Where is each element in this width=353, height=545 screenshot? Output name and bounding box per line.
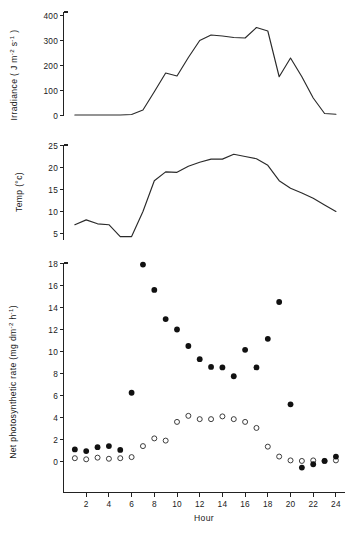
data-point — [276, 299, 282, 305]
photosynthesis-xtick-16: 16 — [240, 499, 250, 509]
photosynthesis-x-tick-labels: 24681012141618202224 — [84, 499, 341, 509]
photosynthesis-axes — [64, 263, 346, 493]
data-point — [197, 417, 202, 422]
temperature-ytick-20: 20 — [48, 163, 58, 173]
data-point — [163, 438, 168, 443]
temperature-y-axis-label: Temp (°c) — [14, 172, 24, 212]
data-point — [106, 443, 112, 449]
data-point — [186, 413, 191, 418]
data-point — [231, 417, 236, 422]
photosynthesis-ytick-10: 10 — [48, 347, 58, 357]
temperature-curve — [75, 154, 336, 236]
photosynthesis-x-axis-label: Hour — [194, 513, 214, 523]
data-point — [117, 447, 123, 453]
scatter-series-filled-circles — [72, 262, 339, 471]
panel-photosynthesis: Net photosynthetic rate (mg dm-2 h-1) 0 … — [7, 259, 345, 524]
photosynthesis-ytick-14: 14 — [48, 303, 58, 313]
temperature-y-ticks — [60, 146, 64, 234]
data-point — [310, 461, 316, 467]
data-point — [152, 436, 157, 441]
photosynthesis-y-axis-label: Net photosynthetic rate (mg dm-2 h-1) — [7, 305, 18, 459]
photosynthesis-xtick-10: 10 — [172, 499, 182, 509]
data-point — [72, 456, 77, 461]
data-point — [254, 425, 259, 430]
irradiance-y-axis-label: Irradiance ( J m-2 s-1 ) — [8, 30, 19, 121]
panel-temperature: Temp (°c) 5 10 15 20 25 — [14, 141, 336, 241]
data-point — [288, 458, 293, 463]
irradiance-ytick-100: 100 — [44, 86, 59, 96]
photosynthesis-ytick-4: 4 — [53, 413, 58, 423]
data-point — [174, 327, 180, 333]
irradiance-ytick-0: 0 — [53, 111, 58, 121]
figure-svg: Irradiance ( J m-2 s-1 ) 0 100 200 300 4… — [0, 0, 353, 545]
data-point — [254, 365, 260, 371]
photosynthesis-xtick-2: 2 — [84, 499, 89, 509]
photosynthesis-xtick-24: 24 — [331, 499, 341, 509]
data-point — [197, 356, 203, 362]
photosynthesis-ytick-18: 18 — [48, 259, 58, 269]
photosynthesis-ytick-6: 6 — [53, 391, 58, 401]
irradiance-ytick-300: 300 — [44, 36, 59, 46]
data-point — [242, 347, 248, 353]
irradiance-y-ticks — [60, 16, 64, 116]
data-point — [95, 455, 100, 460]
temperature-ytick-10: 10 — [48, 207, 58, 217]
data-point — [231, 373, 237, 379]
data-point — [288, 401, 294, 407]
data-point — [175, 419, 180, 424]
photosynthesis-xtick-22: 22 — [308, 499, 318, 509]
panel-irradiance: Irradiance ( J m-2 s-1 ) 0 100 200 300 4… — [8, 11, 336, 121]
photosynthesis-ytick-2: 2 — [53, 435, 58, 445]
data-point — [265, 444, 270, 449]
data-point — [163, 316, 169, 322]
data-point — [209, 417, 214, 422]
photosynthesis-ytick-16: 16 — [48, 281, 58, 291]
photosynthesis-xtick-6: 6 — [129, 499, 134, 509]
data-point — [220, 414, 225, 419]
data-point — [243, 419, 248, 424]
data-point — [277, 454, 282, 459]
data-point — [185, 343, 191, 349]
scientific-figure: Irradiance ( J m-2 s-1 ) 0 100 200 300 4… — [0, 0, 353, 545]
data-point — [95, 444, 101, 450]
data-point — [129, 455, 134, 460]
photosynthesis-ytick-8: 8 — [53, 369, 58, 379]
photosynthesis-ytick-0: 0 — [53, 457, 58, 467]
data-point — [140, 262, 146, 268]
data-point — [83, 448, 89, 454]
data-point — [322, 458, 328, 464]
data-point — [299, 465, 305, 471]
temperature-ytick-25: 25 — [48, 141, 58, 151]
data-point — [333, 454, 339, 460]
irradiance-ytick-200: 200 — [44, 61, 59, 71]
data-point — [299, 458, 304, 463]
photosynthesis-xtick-8: 8 — [152, 499, 157, 509]
temperature-ytick-15: 15 — [48, 185, 58, 195]
photosynthesis-xtick-4: 4 — [106, 499, 111, 509]
data-point — [129, 390, 135, 396]
data-point — [220, 365, 226, 371]
photosynthesis-x-ticks — [86, 493, 336, 497]
data-point — [84, 457, 89, 462]
data-point — [265, 336, 271, 342]
photosynthesis-y-ticks — [60, 264, 64, 462]
photosynthesis-ytick-12: 12 — [48, 325, 58, 335]
irradiance-curve — [75, 28, 336, 116]
data-point — [151, 287, 157, 293]
photosynthesis-xtick-12: 12 — [195, 499, 205, 509]
scatter-series-open-circles — [72, 413, 338, 463]
data-point — [106, 456, 111, 461]
photosynthesis-xtick-20: 20 — [286, 499, 296, 509]
photosynthesis-xtick-14: 14 — [218, 499, 228, 509]
data-point — [208, 364, 214, 370]
data-point — [118, 456, 123, 461]
irradiance-ytick-400: 400 — [44, 11, 59, 21]
photosynthesis-xtick-18: 18 — [263, 499, 273, 509]
data-point — [140, 444, 145, 449]
temperature-ytick-5: 5 — [53, 229, 58, 239]
data-point — [72, 447, 78, 453]
